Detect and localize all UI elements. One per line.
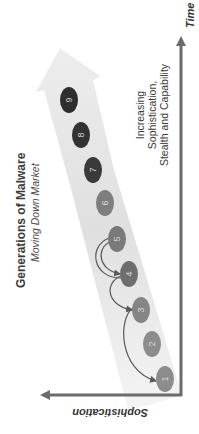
time-axis-label: Time: [184, 3, 196, 28]
description-line-1: Increasing: [134, 40, 146, 190]
generation-marker-1: 1: [156, 366, 174, 392]
diagram-subtitle: Moving Down Market: [29, 163, 41, 262]
generation-number: 4: [124, 271, 134, 276]
generation-marker-9: 9: [60, 87, 78, 113]
generation-number: 3: [136, 307, 146, 312]
generation-marker-5: 5: [108, 226, 126, 252]
generation-number: 6: [100, 200, 110, 205]
generation-number: 9: [64, 97, 74, 102]
description-text: Increasing Sophistication, Stealth and C…: [134, 40, 170, 190]
generation-marker-6: 6: [96, 190, 114, 216]
description-line-3: Stealth and Capability: [158, 40, 170, 190]
generation-marker-3: 3: [132, 297, 150, 323]
generation-number: 8: [76, 132, 86, 137]
generation-marker-4: 4: [120, 261, 138, 287]
diagram-title: Generations of Malware: [14, 153, 28, 288]
description-line-2: Sophistication,: [146, 40, 158, 190]
generation-marker-7: 7: [84, 157, 102, 183]
generation-number: 2: [147, 341, 157, 346]
time-axis-arrow-icon: [176, 36, 186, 46]
generation-number: 1: [160, 376, 170, 381]
generation-marker-2: 2: [143, 331, 161, 357]
generation-number: 7: [88, 167, 98, 172]
generation-marker-8: 8: [72, 122, 90, 148]
generation-number: 5: [112, 236, 122, 241]
sophistication-axis-label: Sophistication: [72, 407, 148, 419]
sophistication-axis-arrow-icon: [40, 390, 50, 400]
